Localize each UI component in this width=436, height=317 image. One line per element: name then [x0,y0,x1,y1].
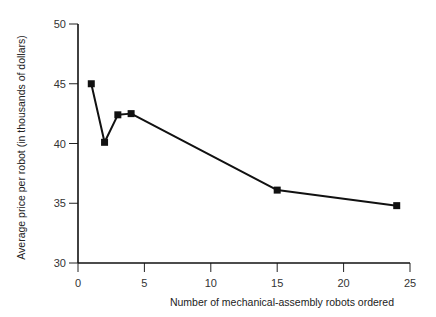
x-tick-label: 25 [404,277,416,289]
data-point-marker [393,202,400,209]
y-tick-label: 50 [54,18,66,30]
y-axis-ticks: 3035404550 [54,18,78,269]
data-point-marker [88,80,95,87]
x-axis-title: Number of mechanical-assembly robots ord… [170,296,394,308]
x-tick-label: 15 [271,277,283,289]
line-chart: 3035404550 0510152025 Number of mechanic… [0,0,436,317]
y-tick-label: 35 [54,197,66,209]
data-point-marker [128,110,135,117]
data-point-marker [114,111,121,118]
y-tick-label: 40 [54,138,66,150]
data-point-marker [101,139,108,146]
x-tick-label: 0 [75,277,81,289]
y-tick-label: 45 [54,78,66,90]
y-tick-label: 30 [54,257,66,269]
series-group [88,80,400,209]
x-tick-label: 5 [141,277,147,289]
x-axis-ticks: 0510152025 [75,263,416,289]
data-point-marker [274,187,281,194]
x-tick-label: 20 [337,277,349,289]
series-line [91,84,396,206]
y-axis-title: Average price per robot (in thousands of… [15,35,27,260]
x-tick-label: 10 [205,277,217,289]
